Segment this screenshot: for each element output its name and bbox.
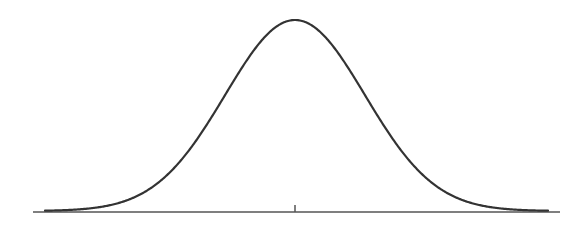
bell-curve-plot [0,0,575,233]
normal-curve [45,20,548,211]
bell-curve-figure [0,0,575,233]
